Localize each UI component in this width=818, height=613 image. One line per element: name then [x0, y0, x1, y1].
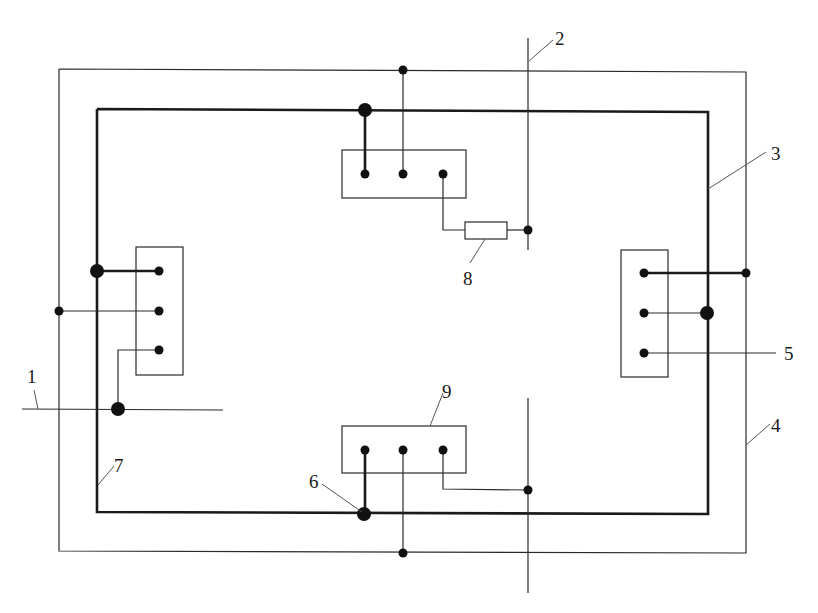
label-6: 6 [309, 471, 319, 492]
junction-dot [742, 269, 751, 278]
wiring-diagram: 1 2 3 4 5 6 7 8 9 [0, 0, 818, 613]
junction-dot [700, 306, 714, 320]
label-7: 7 [114, 455, 124, 476]
label-8: 8 [463, 268, 473, 289]
terminal-dot [399, 170, 408, 179]
terminal-dot [361, 446, 370, 455]
terminal-dot [439, 446, 448, 455]
terminal-block-top [342, 66, 466, 231]
terminal-dot [155, 307, 164, 316]
terminal-block-left [55, 247, 184, 416]
label-9: 9 [442, 381, 452, 402]
terminal-block-right [621, 250, 776, 377]
label-3: 3 [771, 143, 781, 164]
junction-dot [399, 66, 408, 75]
label-4: 4 [771, 415, 781, 436]
junction-dot [111, 402, 125, 416]
labels: 1 2 3 4 5 6 7 8 9 [27, 28, 794, 492]
junction-dot [90, 264, 104, 278]
junction-dot [358, 103, 372, 117]
junction-dot [524, 226, 533, 235]
terminal-dot [155, 346, 164, 355]
junction-dot [524, 486, 533, 495]
label-1: 1 [27, 366, 37, 387]
terminal-dot [399, 446, 408, 455]
terminal-dot [155, 267, 164, 276]
terminal-dot [640, 309, 649, 318]
junction-dot [55, 307, 64, 316]
terminal-dot [640, 349, 649, 358]
terminal-dot [640, 269, 649, 278]
terminal-block-bottom [342, 426, 533, 558]
junction-dot [399, 549, 408, 558]
terminal-dot [439, 170, 448, 179]
junction-dot [357, 507, 371, 521]
terminal-dot [361, 170, 370, 179]
resistor [465, 222, 533, 239]
label-5: 5 [784, 343, 794, 364]
label-2: 2 [555, 28, 565, 49]
